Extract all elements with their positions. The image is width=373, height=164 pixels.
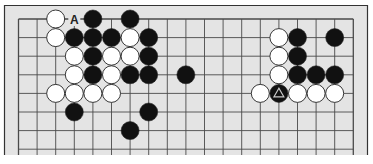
go-board: A [0,0,373,164]
white-stone [47,29,65,47]
white-stone [103,66,121,84]
white-stone [65,66,83,84]
black-stone [121,10,139,28]
white-stone [121,47,139,65]
black-stone [65,103,83,121]
white-stone [270,66,288,84]
black-stone [140,103,158,121]
black-stone [103,29,121,47]
black-stone [326,29,344,47]
white-stone [65,84,83,102]
white-stone [65,47,83,65]
white-stone [84,84,102,102]
black-stone [84,66,102,84]
white-stone [121,29,139,47]
white-stone [307,84,325,102]
black-stone [307,66,325,84]
black-stone [289,47,307,65]
white-stone [289,84,307,102]
black-stone [177,66,195,84]
black-stone [84,47,102,65]
black-stone [140,66,158,84]
black-stone [84,29,102,47]
black-stone [289,29,307,47]
labels-layer: A [68,12,80,27]
white-stone [47,10,65,28]
black-stone [289,66,307,84]
black-stone [326,66,344,84]
white-stone [251,84,269,102]
black-stone [84,10,102,28]
white-stone [270,29,288,47]
black-stone [121,66,139,84]
point-label-a: A [70,13,79,27]
white-stone [103,84,121,102]
white-stone [103,47,121,65]
white-stone [47,84,65,102]
black-stone [121,122,139,140]
white-stone [270,47,288,65]
black-stone [140,29,158,47]
black-stone [140,47,158,65]
white-stone [326,84,344,102]
black-stone [65,29,83,47]
